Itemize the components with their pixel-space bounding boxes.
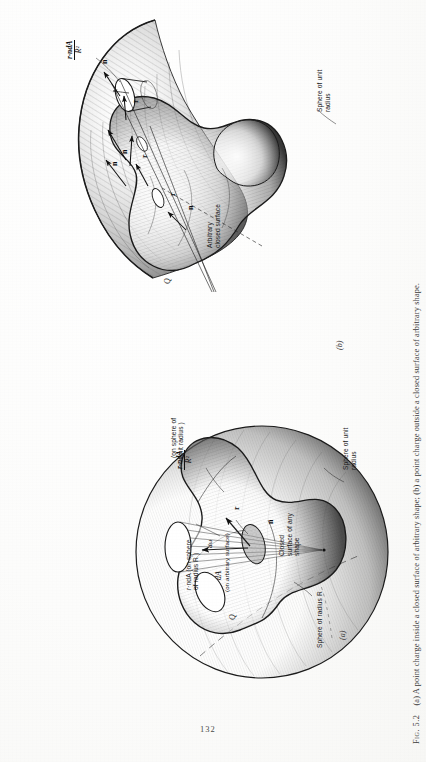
figure-caption: Fig. 5.2 (a) A point charge inside a clo…: [412, 283, 421, 744]
fig-a-sublabel: (a): [338, 631, 347, 640]
fig-a-flux-radius-sphere-label: r·ndA (on sphere of radius R ): [185, 534, 200, 590]
fig-a-sphere-unit-label: Sphere of unit radius: [342, 426, 357, 470]
page-number: 132: [200, 724, 216, 734]
fig-a-vector-n: n: [266, 520, 275, 524]
figure-caption-text: (a) A point charge inside a closed surfa…: [412, 283, 421, 706]
fig-a-vector-r: r: [232, 506, 241, 510]
fig-a-sphere-radius-label: Sphere of radius R: [316, 591, 323, 648]
figure-a-drawing: [0, 0, 426, 762]
fig-a-closed-surface-label: Closed surface of any shape: [278, 512, 301, 556]
fig-a-dA-label: dA: [214, 571, 223, 580]
fig-a-solid-angle-label: dω: [206, 540, 214, 548]
fig-a-flux-unit-sphere-label: (on sphere of unit radius ): [170, 414, 185, 458]
fig-a-dA-qualifier: (on arbitrary surface): [224, 533, 231, 592]
fig-a-charge-label: Q: [228, 614, 237, 620]
figure-caption-label: Fig. 5.2: [412, 715, 421, 744]
scanned-page: r·ndA R² n r n n r r n Q Arbitrary close…: [0, 0, 426, 762]
